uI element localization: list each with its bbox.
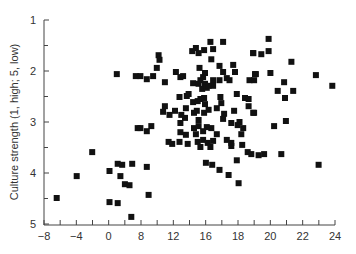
data-point-square [201,95,207,101]
x-tick-label: 0 [106,230,112,242]
x-tick-label: 18 [232,230,244,242]
data-point-square [180,73,186,79]
data-point-square [217,94,223,100]
data-point-square [246,96,252,102]
data-point-square [214,105,220,111]
data-point-square [316,162,322,168]
data-point-square [74,173,80,179]
data-point-square [200,128,206,134]
data-point-square [197,144,203,150]
x-tick-label: −8 [38,230,51,242]
data-point-square [107,168,113,174]
data-point-square [232,69,238,75]
data-point-square [288,59,294,65]
data-point-square [210,138,216,144]
data-point-square [236,180,242,186]
data-point-square [184,93,190,99]
data-points [54,36,336,220]
data-point-square [283,118,289,124]
data-point-square [194,108,200,114]
data-point-square [162,79,168,85]
data-point-square [183,132,189,138]
data-point-square [271,123,277,129]
data-point-square [157,57,163,63]
y-tick-label: 2 [30,65,36,77]
data-point-square [183,105,189,111]
data-point-square [228,143,234,149]
data-point-square [177,129,183,135]
data-point-square [209,162,215,168]
data-point-square [235,122,241,128]
data-point-square [206,83,212,89]
x-tick-label: 16 [200,230,212,242]
data-point-square [150,73,156,79]
data-point-square [266,36,272,42]
data-point-square [115,200,121,206]
data-point-square [200,74,206,80]
data-point-square [227,77,233,83]
data-point-square [230,62,236,68]
data-point-square [144,128,150,134]
data-point-square [246,103,252,109]
data-point-square [210,46,216,52]
data-point-square [169,141,175,147]
data-point-square [162,103,168,109]
data-point-square [208,56,214,62]
data-point-square [290,88,296,94]
y-tick-label: 5 [30,218,36,230]
data-point-square [258,51,264,57]
data-point-square [144,76,150,82]
data-point-square [177,120,183,126]
data-point-square [217,167,223,173]
data-point-square [261,151,267,157]
data-point-square [313,72,319,78]
data-point-square [201,47,207,53]
data-point-square [226,172,232,178]
data-point-square [220,39,226,45]
data-point-square [89,149,95,155]
data-point-square [251,77,257,83]
data-point-square [54,195,60,201]
data-point-square [177,139,183,145]
data-point-square [217,77,223,83]
data-point-square [206,107,212,113]
data-point-square [114,71,120,77]
data-point-square [281,79,287,85]
y-axis-title: Culture strength (1, high; 5, low) [8,44,20,201]
x-tick-label: 12 [167,230,179,242]
data-point-square [119,162,125,168]
data-point-square [129,161,135,167]
data-point-square [248,151,254,157]
data-point-square [154,65,160,71]
data-point-square [196,117,202,123]
x-tick-label: 20 [264,230,276,242]
data-point-square [144,164,150,170]
data-point-square [231,108,237,114]
data-point-square [256,152,262,158]
x-tick-label: 22 [297,230,309,242]
y-tick-label: 4 [30,167,36,179]
y-tick-label: 3 [30,116,36,128]
data-point-square [128,214,134,220]
data-point-square [185,141,191,147]
data-point-square [202,101,208,107]
data-point-square [217,63,223,69]
data-point-square [210,77,216,83]
data-point-square [172,108,178,114]
data-point-square [160,109,166,115]
scatter-chart: 12345−8−408121618202224 Culture strength… [0,0,356,254]
data-point-square [228,120,234,126]
data-point-square [146,192,152,198]
data-point-square [177,94,183,100]
data-point-square [214,131,220,137]
data-point-square [137,125,143,131]
x-tick-label: −4 [70,230,83,242]
data-point-square [240,125,246,131]
x-tick-label: 8 [138,230,144,242]
data-point-square [275,88,281,94]
data-point-square [193,131,199,137]
data-point-square [238,131,244,137]
y-tick-label: 1 [30,14,36,26]
data-point-square [329,83,335,89]
data-point-square [251,110,257,116]
